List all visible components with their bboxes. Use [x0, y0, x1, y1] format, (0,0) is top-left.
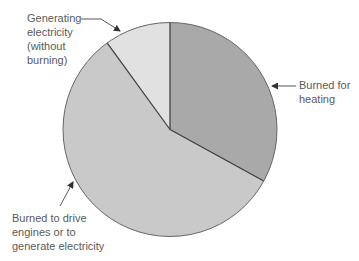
label-nonburning: Generating electricity (without burning): [27, 11, 81, 67]
label-line: (without: [27, 39, 81, 53]
label-line: burning): [27, 53, 81, 67]
arrow-engines: [60, 182, 73, 206]
pie-slices: [63, 23, 277, 237]
label-line: electricity: [27, 25, 81, 39]
label-line: Generating: [27, 11, 81, 25]
label-line: Burned for: [299, 78, 350, 92]
label-line: heating: [299, 92, 350, 106]
label-line: generate electricity: [12, 239, 104, 253]
label-line: Burned to drive: [12, 211, 104, 225]
label-engines: Burned to drive engines or to generate e…: [12, 211, 104, 253]
arrow-nonburning: [81, 19, 120, 31]
label-line: engines or to: [12, 225, 104, 239]
label-heating: Burned for heating: [299, 78, 350, 106]
